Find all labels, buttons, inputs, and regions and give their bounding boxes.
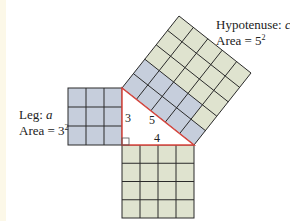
side-b-length: 4 xyxy=(154,131,160,146)
hypotenuse-label: Hypotenuse: c Area = 52 xyxy=(216,17,290,49)
hypotenuse-area-prefix: Area = xyxy=(216,33,255,48)
side-c-length: 5 xyxy=(149,113,155,128)
hypotenuse-variable: c xyxy=(285,17,290,32)
leg-variable: a xyxy=(46,107,53,122)
leg-area-exponent: 2 xyxy=(65,123,69,132)
leg-a-square xyxy=(68,88,122,145)
side-a-length: 3 xyxy=(125,111,131,126)
hypotenuse-area-exponent: 2 xyxy=(262,33,266,42)
leg-b-square xyxy=(122,145,194,218)
leg-label: Leg: a Area = 32 xyxy=(19,107,69,139)
leg-label-prefix: Leg: xyxy=(19,107,46,122)
hypotenuse-label-prefix: Hypotenuse: xyxy=(216,17,285,32)
leg-area-prefix: Area = xyxy=(19,123,58,138)
